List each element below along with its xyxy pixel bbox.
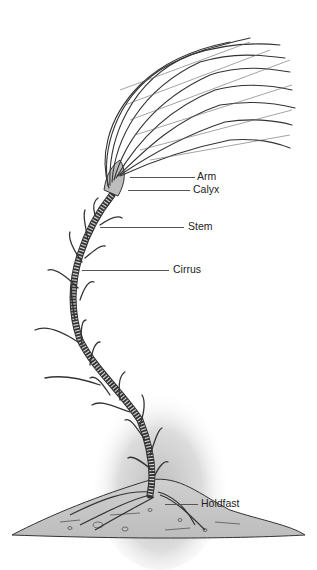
arm-label: Arm [197, 171, 216, 182]
holdfast-label: Holdfast [201, 498, 240, 509]
holdfast-leader-line [165, 504, 198, 505]
calyx-label: Calyx [193, 184, 219, 195]
crinoid-illustration [0, 0, 317, 570]
stem-leader-line [100, 227, 184, 228]
cirrus-label: Cirrus [173, 264, 201, 275]
calyx-leader-line [128, 190, 190, 191]
seabed [12, 479, 305, 538]
background-shadow [90, 370, 230, 570]
stem-label: Stem [188, 221, 213, 232]
cirrus-leader-line [82, 270, 169, 271]
arm-leader-line [130, 177, 195, 178]
